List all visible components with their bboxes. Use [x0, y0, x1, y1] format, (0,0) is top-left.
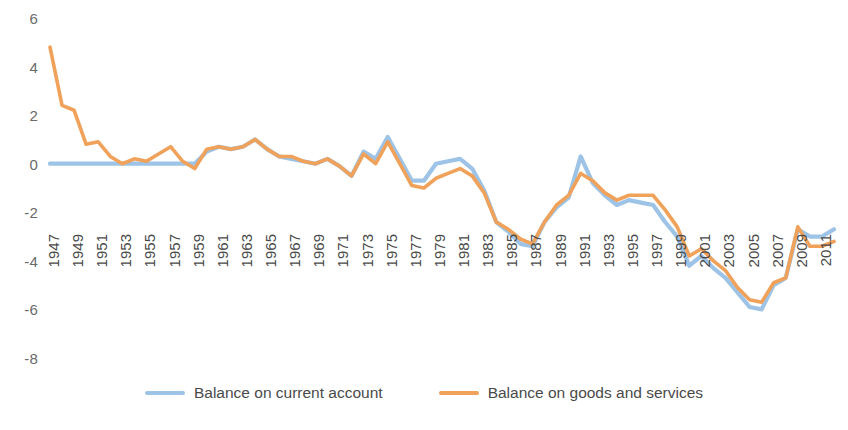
x-axis-tick-label: 1983	[479, 234, 496, 267]
x-axis-tick-label: 1985	[503, 234, 520, 267]
x-axis-tick-label: 1955	[141, 234, 158, 267]
chart-legend: Balance on current account Balance on go…	[0, 384, 848, 402]
x-axis-tick-label: 1949	[69, 234, 86, 267]
x-axis-tick-label: 1987	[527, 234, 544, 267]
legend-label-current-account: Balance on current account	[194, 384, 383, 402]
legend-label-goods-services: Balance on goods and services	[488, 384, 703, 402]
x-axis-tick-label: 1981	[455, 234, 472, 267]
x-axis-tick-label: 1997	[648, 234, 665, 267]
legend-item-current-account[interactable]: Balance on current account	[145, 384, 383, 402]
y-axis-tick-label: 4	[29, 58, 38, 75]
x-axis-tick-label: 1947	[45, 234, 62, 267]
x-axis-tick-label: 1993	[600, 234, 617, 267]
x-axis-tick-label: 1989	[552, 234, 569, 267]
legend-item-goods-services[interactable]: Balance on goods and services	[439, 384, 703, 402]
y-axis-tick-label: -6	[24, 301, 38, 318]
legend-swatch-current-account	[145, 391, 185, 395]
x-axis-tick-label: 1979	[431, 234, 448, 267]
x-axis-tick-label: 1965	[262, 234, 279, 267]
x-axis-tick-label: 2001	[696, 234, 713, 267]
x-axis: 1947194919511953195519571959196119631965…	[48, 176, 838, 246]
y-axis-tick-label: 6	[29, 10, 38, 27]
chart-container: 6420-2-4-6-8 194719491951195319551957195…	[0, 0, 848, 430]
x-axis-tick-label: 1967	[286, 234, 303, 267]
y-axis: 6420-2-4-6-8	[0, 0, 48, 376]
x-axis-tick-label: 1971	[334, 234, 351, 267]
x-axis-tick-label: 2011	[817, 234, 834, 266]
y-axis-tick-label: 2	[29, 107, 38, 124]
y-axis-tick-label: -4	[24, 252, 38, 269]
x-axis-tick-label: 1999	[672, 234, 689, 267]
x-axis-tick-label: 1969	[310, 234, 327, 267]
y-axis-tick-label: -8	[24, 350, 38, 367]
x-axis-tick-label: 1975	[383, 234, 400, 267]
x-axis-tick-label: 2007	[769, 234, 786, 267]
x-axis-tick-label: 1977	[407, 234, 424, 267]
x-axis-tick-label: 1963	[238, 234, 255, 267]
y-axis-tick-label: -2	[24, 204, 38, 221]
x-axis-tick-label: 1991	[576, 234, 593, 267]
y-axis-tick-label: 0	[29, 155, 38, 172]
x-axis-tick-label: 2005	[745, 234, 762, 267]
x-axis-tick-label: 1957	[166, 234, 183, 267]
x-axis-tick-label: 1959	[190, 234, 207, 267]
x-axis-tick-label: 1995	[624, 234, 641, 267]
x-axis-tick-label: 1953	[117, 234, 134, 267]
x-axis-tick-label: 1961	[214, 234, 231, 267]
x-axis-tick-label: 2003	[720, 234, 737, 267]
x-axis-tick-label: 2009	[793, 234, 810, 267]
x-axis-tick-label: 1951	[93, 234, 110, 267]
legend-swatch-goods-services	[439, 391, 479, 395]
x-axis-tick-label: 1973	[359, 234, 376, 267]
